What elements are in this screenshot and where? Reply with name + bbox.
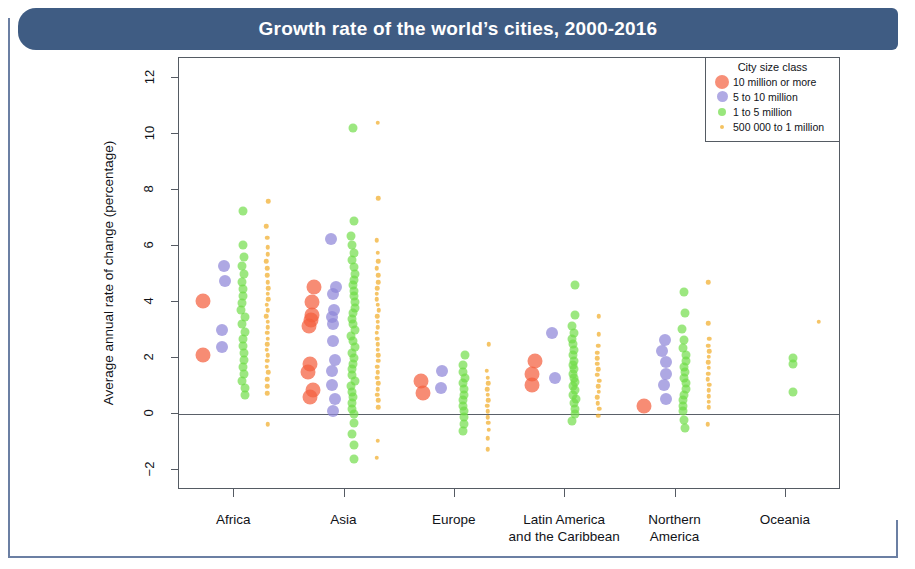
legend-title: City size class bbox=[711, 61, 834, 73]
data-point bbox=[376, 196, 381, 201]
data-point bbox=[596, 343, 601, 348]
x-tick-label-line: America bbox=[595, 528, 755, 545]
y-tick-mark bbox=[171, 469, 178, 470]
data-point bbox=[706, 360, 711, 365]
data-point bbox=[327, 405, 339, 417]
data-point bbox=[706, 422, 711, 427]
data-point bbox=[595, 395, 600, 400]
x-tick-label-line: Oceania bbox=[705, 511, 865, 528]
data-point bbox=[239, 240, 248, 249]
data-point bbox=[265, 359, 270, 364]
data-point bbox=[265, 377, 270, 382]
data-point bbox=[546, 327, 558, 339]
data-point bbox=[597, 332, 602, 337]
data-point bbox=[707, 383, 712, 388]
data-point bbox=[265, 331, 270, 336]
y-tick-label: 10 bbox=[132, 125, 166, 140]
data-point bbox=[416, 386, 431, 401]
data-point bbox=[816, 319, 821, 324]
data-point bbox=[266, 336, 271, 341]
data-point bbox=[597, 406, 602, 411]
data-point bbox=[706, 343, 711, 348]
data-point bbox=[486, 376, 491, 381]
data-point bbox=[266, 353, 271, 358]
data-point bbox=[570, 310, 579, 319]
data-point bbox=[486, 398, 491, 403]
title-banner: Growth rate of the world’s cities, 2000-… bbox=[18, 8, 898, 50]
card-border-right bbox=[896, 520, 898, 558]
data-point bbox=[195, 348, 210, 363]
data-point bbox=[485, 415, 490, 420]
y-tick-label: 6 bbox=[132, 237, 166, 252]
y-tick-label: 4 bbox=[132, 294, 166, 309]
data-point bbox=[707, 399, 712, 404]
y-tick-mark bbox=[171, 301, 178, 302]
y-tick-label: 12 bbox=[132, 69, 166, 84]
zero-reference-line bbox=[179, 414, 839, 415]
data-point bbox=[349, 455, 358, 464]
data-point bbox=[459, 427, 468, 436]
data-point bbox=[375, 364, 380, 369]
data-point bbox=[660, 393, 672, 405]
data-point bbox=[597, 314, 602, 319]
data-point bbox=[375, 238, 380, 243]
data-point bbox=[264, 347, 269, 352]
data-point bbox=[706, 280, 711, 285]
data-point bbox=[350, 418, 359, 427]
data-point bbox=[680, 309, 689, 318]
y-tick-mark bbox=[171, 189, 178, 190]
data-point bbox=[789, 387, 798, 396]
data-point bbox=[375, 376, 380, 381]
data-point bbox=[706, 321, 711, 326]
data-point bbox=[265, 308, 270, 313]
data-point bbox=[707, 405, 712, 410]
data-point bbox=[596, 401, 601, 406]
data-point bbox=[307, 279, 322, 294]
legend-dot-icon bbox=[720, 125, 724, 129]
card-border-left bbox=[8, 18, 10, 558]
legend-item[interactable]: 10 million or more bbox=[711, 74, 834, 89]
legend-dot-icon bbox=[717, 91, 728, 102]
data-point bbox=[329, 354, 341, 366]
data-point bbox=[375, 297, 380, 302]
data-point bbox=[264, 314, 269, 319]
legend-item[interactable]: 1 to 5 million bbox=[711, 104, 834, 119]
data-point bbox=[376, 347, 381, 352]
data-point bbox=[376, 259, 381, 264]
data-point bbox=[707, 336, 712, 341]
data-point bbox=[659, 334, 671, 346]
data-point bbox=[375, 286, 380, 291]
data-point bbox=[265, 245, 270, 250]
data-point bbox=[485, 404, 490, 409]
data-point bbox=[266, 280, 271, 285]
data-point bbox=[265, 384, 270, 389]
data-point bbox=[376, 405, 381, 410]
legend-swatch bbox=[711, 108, 733, 116]
data-point bbox=[240, 390, 249, 399]
data-point bbox=[485, 409, 490, 414]
data-point bbox=[597, 390, 602, 395]
data-point bbox=[707, 394, 712, 399]
data-point bbox=[375, 120, 380, 125]
legend-item[interactable]: 5 to 10 million bbox=[711, 89, 834, 104]
y-tick-label: 0 bbox=[132, 406, 166, 421]
data-point bbox=[679, 288, 688, 297]
data-point bbox=[486, 392, 491, 397]
data-point bbox=[196, 293, 211, 308]
data-point bbox=[376, 319, 381, 324]
data-point bbox=[266, 199, 271, 204]
data-point bbox=[347, 429, 356, 438]
data-point bbox=[264, 224, 269, 229]
data-point bbox=[705, 377, 710, 382]
legend-item[interactable]: 500 000 to 1 million bbox=[711, 119, 834, 134]
data-point bbox=[376, 370, 381, 375]
data-point bbox=[265, 273, 270, 278]
legend: City size class 10 million or more5 to 1… bbox=[705, 57, 840, 142]
data-point bbox=[376, 387, 381, 392]
data-point bbox=[658, 379, 670, 391]
data-point bbox=[660, 356, 672, 368]
data-point bbox=[706, 371, 711, 376]
data-point bbox=[376, 325, 381, 330]
data-point bbox=[597, 378, 602, 383]
data-point bbox=[485, 447, 490, 452]
